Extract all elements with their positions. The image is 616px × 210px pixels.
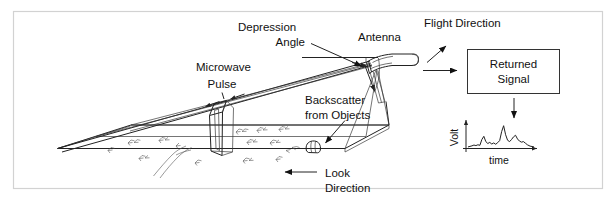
label-depression-angle-line1: Depression <box>238 21 296 33</box>
label-microwave-pulse-line2: Pulse <box>208 78 237 90</box>
label-backscatter-line1: Backscatter <box>305 94 365 106</box>
label-antenna: Antenna <box>358 31 401 43</box>
leader-depression-angle <box>311 44 362 67</box>
returned-signal-line2: Signal <box>498 73 530 85</box>
leader-backscatter <box>326 121 346 144</box>
leader-flight-direction <box>427 46 446 63</box>
label-look-direction-line2: Direction <box>325 182 370 194</box>
antenna-body <box>367 54 419 74</box>
label-flight-direction: Flight Direction <box>424 17 501 29</box>
figure-root: Returned Signal Volt time Depression Ang… <box>0 0 616 210</box>
label-look-direction-line1: Look <box>325 167 350 179</box>
depression-angle-construction <box>302 58 379 93</box>
leader-microwave-pulse <box>222 93 224 100</box>
plot-ylabel: Volt <box>448 129 460 147</box>
river-feature <box>154 146 192 178</box>
label-microwave-pulse-line1: Microwave <box>196 61 251 73</box>
returned-signal-line1: Returned <box>490 58 537 70</box>
sar-geometry-diagram: Returned Signal Volt time Depression Ang… <box>0 0 616 210</box>
waveform-trace <box>468 126 534 147</box>
radar-beam-fan <box>58 61 390 152</box>
plot-xlabel: time <box>489 154 509 166</box>
label-backscatter-line2: from Objects <box>305 109 370 121</box>
label-depression-angle-line2: Angle <box>276 36 305 48</box>
returned-signal-plot: Volt time <box>448 120 537 166</box>
returned-signal-box: Returned Signal <box>468 50 560 94</box>
